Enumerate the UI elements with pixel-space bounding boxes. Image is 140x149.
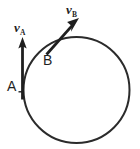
velocity-a-subscript: A	[20, 28, 25, 37]
velocity-a-symbol: v	[14, 20, 20, 35]
point-b-label: B	[43, 53, 52, 67]
point-a-label: A	[7, 79, 16, 93]
physics-diagram-figure: vA vB A B	[0, 0, 140, 149]
velocity-b-subscript: B	[72, 10, 77, 19]
velocity-vector-b-shaft	[47, 24, 74, 54]
velocity-a-label: vA	[14, 19, 25, 35]
velocity-b-symbol: v	[66, 2, 72, 17]
circular-path	[24, 37, 130, 143]
velocity-vector-a	[18, 37, 26, 100]
velocity-b-label: vB	[66, 1, 77, 17]
